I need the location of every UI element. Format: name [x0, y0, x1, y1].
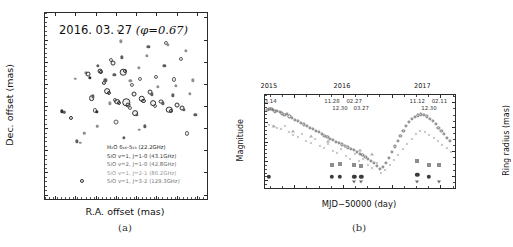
y-minor-tick-left — [265, 188, 267, 189]
lightcurve-point — [408, 121, 411, 124]
maser-spot — [113, 73, 116, 76]
maser-spot — [161, 102, 164, 105]
y-minor-tick — [45, 181, 47, 182]
photometry-point — [296, 124, 299, 127]
y-minor-tick — [45, 53, 47, 54]
y-minor-tick — [45, 137, 47, 138]
x-minor-tick — [94, 197, 95, 199]
x-minor-tick — [416, 186, 417, 188]
x-minor-tick — [77, 197, 78, 199]
observation-date-label: 12.30 — [332, 105, 347, 111]
x-minor-tick — [428, 186, 429, 188]
photometry-point — [305, 127, 308, 130]
gray-triangle-point — [358, 149, 362, 152]
y-minor-tick-left — [265, 118, 267, 119]
x-minor-tick — [404, 95, 405, 97]
maser-spot — [80, 179, 84, 183]
y-minor-tick — [45, 66, 47, 67]
maser-spot — [110, 60, 115, 65]
y-tick-mark — [45, 172, 48, 173]
x-minor-tick — [118, 197, 119, 199]
maser-spot — [107, 91, 111, 95]
y-minor-tick — [45, 93, 47, 94]
x-minor-tick — [331, 186, 332, 188]
y-tick-mark-right — [204, 40, 207, 41]
y-tick-mark-right — [452, 176, 455, 177]
year-label-2016: 2016 — [334, 82, 351, 90]
y-minor-tick-left — [265, 165, 267, 166]
legend-entry-0: H₂O 6₁₆-5₂₃ (22.2GHz) — [107, 143, 180, 152]
y-tick-mark-right — [204, 128, 207, 129]
y-tick-mark-right — [204, 17, 207, 18]
y-minor-tick — [45, 146, 47, 147]
x-minor-tick — [355, 95, 356, 97]
photometry-point — [423, 119, 426, 122]
maser-spot — [172, 77, 176, 81]
x-minor-tick — [379, 95, 380, 97]
legend-entry-3: SiO v=1, J=2-1 (86.2GHz) — [107, 169, 180, 178]
x-minor-tick — [367, 186, 368, 188]
x-minor-tick — [331, 95, 332, 97]
maser-spot — [74, 77, 76, 79]
y-minor-tick-right — [453, 188, 455, 189]
legend-entry-4: SiO v=1, J=3-2 (129.3GHz) — [107, 177, 180, 186]
x-tick-mark — [440, 95, 441, 98]
legend-entry-2: SiO v=2, J=1-0 (42.8GHz) — [107, 160, 180, 169]
x-tick-mark — [343, 95, 344, 98]
x-minor-tick — [122, 197, 123, 199]
y-tick-mark-right — [204, 195, 207, 196]
x-minor-tick — [110, 197, 111, 199]
x-tick-mark-top — [96, 13, 97, 16]
photometry-point — [436, 128, 439, 131]
x-minor-tick — [126, 197, 127, 199]
panel-a-caption-label: (a) — [44, 222, 206, 233]
ring-radius-circle — [338, 175, 342, 179]
photometry-point — [327, 131, 330, 134]
ring-radius-square — [359, 164, 363, 168]
photometry-point — [406, 130, 409, 133]
maser-spot — [113, 119, 118, 124]
x-minor-tick — [86, 197, 87, 199]
panel-a-legend: H₂O 6₁₆-5₂₃ (22.2GHz)SiO v=1, J=1-0 (43.… — [107, 143, 180, 186]
x-minor-tick — [179, 197, 180, 199]
y-tick-mark — [45, 62, 48, 63]
x-minor-tick — [195, 197, 196, 199]
lightcurve-point — [384, 161, 387, 164]
maser-spot — [191, 79, 194, 82]
photometry-point — [279, 116, 282, 119]
x-minor-tick — [49, 197, 50, 199]
y-minor-tick — [45, 13, 47, 14]
maser-spot — [96, 125, 98, 127]
y-minor-tick — [45, 159, 47, 160]
panel-a-title-phase: (φ=0.67) — [136, 23, 188, 37]
y-minor-tick-left — [265, 107, 267, 108]
legend-entry-1: SiO v=1, J=1-0 (43.1GHz) — [107, 152, 180, 161]
y-minor-tick — [45, 190, 47, 191]
y-tick-mark-right — [204, 84, 207, 85]
x-tick-mark — [343, 185, 344, 188]
maser-spot — [141, 99, 145, 103]
maser-spot — [153, 104, 157, 108]
y-minor-tick-left — [265, 99, 267, 100]
x-minor-tick — [199, 197, 200, 199]
y-tick-mark — [45, 195, 48, 196]
upper-limit-triangle — [415, 180, 419, 183]
y-minor-tick — [45, 177, 47, 178]
maser-spot — [138, 76, 142, 80]
photometry-point — [441, 132, 444, 135]
y-minor-tick-right — [453, 157, 455, 158]
ring-radius-circle — [352, 175, 356, 179]
maser-spot — [138, 129, 140, 131]
x-minor-tick — [187, 197, 188, 199]
maser-spot — [150, 93, 153, 96]
x-tick-mark — [392, 185, 393, 188]
y-minor-tick-left — [265, 153, 267, 154]
year-label-2015: 2015 — [260, 82, 277, 90]
observation-date-label: 11.28 — [324, 98, 339, 104]
maser-spot — [117, 101, 121, 105]
figure-root: Dec. offset (mas) 2016. 03. 27 (φ=0.67) … — [0, 0, 513, 247]
x-minor-tick — [207, 197, 208, 199]
y-tick-mark — [45, 150, 48, 151]
x-minor-tick — [162, 197, 163, 199]
gray-triangle-point — [326, 139, 330, 142]
